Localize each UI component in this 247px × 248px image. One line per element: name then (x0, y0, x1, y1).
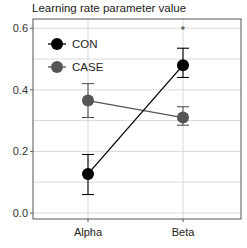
legend-marker (51, 38, 63, 50)
significance-marker: * (181, 24, 186, 36)
data-point (177, 112, 189, 124)
y-tick-label: 0.4 (13, 84, 28, 96)
data-point (82, 95, 94, 107)
y-tick-label: 0.2 (13, 145, 28, 157)
line-chart: 0.00.20.40.6AlphaBeta*CONCASE (0, 0, 247, 248)
series-line (88, 65, 183, 174)
legend-label: CASE (72, 61, 104, 73)
plot-frame (33, 19, 241, 219)
data-point (82, 168, 94, 180)
series-line (88, 101, 183, 118)
x-tick-label: Beta (172, 226, 196, 238)
legend-label: CON (72, 38, 98, 50)
x-tick-label: Alpha (74, 226, 103, 238)
legend-marker (51, 61, 63, 73)
y-tick-label: 0.6 (13, 22, 28, 34)
data-point (177, 59, 189, 71)
y-tick-label: 0.0 (13, 207, 28, 219)
